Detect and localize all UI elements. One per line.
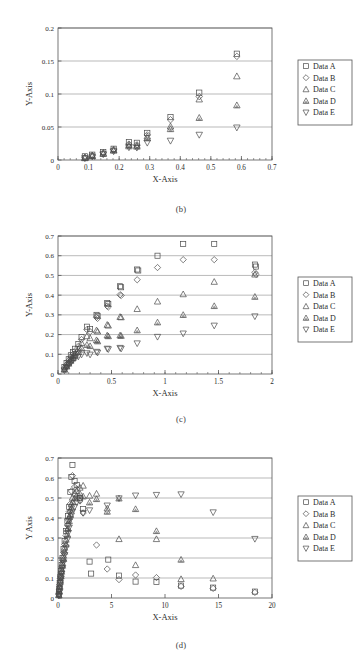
svg-text:0.5: 0.5 <box>45 272 54 280</box>
series-data-e <box>56 492 258 599</box>
svg-text:0.2: 0.2 <box>115 164 124 172</box>
x-axis-label: X-Axis <box>152 174 177 184</box>
svg-text:0.1: 0.1 <box>84 164 93 172</box>
y-axis-label: Y-Axis <box>24 293 34 317</box>
series-data-c <box>82 73 240 160</box>
svg-text:0.1: 0.1 <box>45 91 54 99</box>
svg-text:0.7: 0.7 <box>45 455 54 463</box>
svg-text:0.2: 0.2 <box>45 25 54 33</box>
plot-frame <box>58 236 272 374</box>
chart-svg-d: 00.10.20.30.40.50.60.705101520X-AxisY Ax… <box>0 434 362 656</box>
chart-svg-c: 00.10.20.30.40.50.60.700.511.52X-AxisY-A… <box>0 222 362 434</box>
svg-text:0.7: 0.7 <box>268 164 277 172</box>
svg-text:0.7: 0.7 <box>45 233 54 241</box>
gridlines <box>58 236 272 354</box>
svg-text:0.05: 0.05 <box>42 124 55 132</box>
legend-label: Data E <box>313 544 335 553</box>
svg-text:0.5: 0.5 <box>45 495 54 503</box>
svg-text:0.3: 0.3 <box>45 535 54 543</box>
svg-text:0.5: 0.5 <box>206 164 215 172</box>
x-axis-label: X-Axis <box>152 388 177 398</box>
series-data-a <box>82 51 239 159</box>
chart-panel-d: 00.10.20.30.40.50.60.705101520X-AxisY Ax… <box>0 434 362 656</box>
svg-text:0.2: 0.2 <box>45 331 54 339</box>
legend-label: Data B <box>313 74 335 83</box>
svg-text:0.3: 0.3 <box>45 311 54 319</box>
svg-text:5: 5 <box>110 602 114 610</box>
svg-text:0.5: 0.5 <box>107 378 116 386</box>
x-axis-label: X-Axis <box>152 612 177 622</box>
legend-label: Data A <box>313 279 336 288</box>
legend-label: Data D <box>313 97 336 106</box>
caption-d: (d) <box>0 640 362 650</box>
gridlines <box>58 458 272 578</box>
svg-text:0.6: 0.6 <box>45 475 54 483</box>
svg-text:0.6: 0.6 <box>45 252 54 260</box>
svg-text:0.1: 0.1 <box>45 351 54 359</box>
series-data-b <box>56 472 258 597</box>
svg-text:0.3: 0.3 <box>145 164 154 172</box>
svg-text:0.6: 0.6 <box>237 164 246 172</box>
chart-svg-b: 00.050.10.150.200.10.20.30.40.50.60.7X-A… <box>0 0 362 222</box>
x-axis: 00.511.52 <box>56 370 274 386</box>
gridlines <box>58 28 272 127</box>
svg-text:20: 20 <box>268 602 276 610</box>
caption-c: (c) <box>0 414 362 424</box>
y-axis: 00.050.10.150.2 <box>42 25 62 165</box>
svg-text:0.15: 0.15 <box>42 58 55 66</box>
svg-text:15: 15 <box>215 602 223 610</box>
series-data-b <box>82 53 240 160</box>
svg-text:0.4: 0.4 <box>176 164 185 172</box>
legend: Data AData BData CData DData E <box>298 60 352 125</box>
x-axis: 05101520 <box>56 594 276 610</box>
svg-text:0: 0 <box>51 595 55 603</box>
page-bottom-strip <box>0 660 362 668</box>
legend: Data AData BData CData DData E <box>298 277 352 342</box>
legend-label: Data A <box>313 62 336 71</box>
svg-text:0.2: 0.2 <box>45 555 54 563</box>
plot-frame <box>58 458 272 598</box>
svg-text:0: 0 <box>56 602 60 610</box>
svg-text:0: 0 <box>51 371 55 379</box>
series-data-a <box>62 241 259 369</box>
legend-label: Data B <box>313 510 335 519</box>
legend-label: Data C <box>313 302 335 311</box>
svg-text:10: 10 <box>161 602 169 610</box>
legend-label: Data E <box>313 325 335 334</box>
series-data-a <box>56 462 257 596</box>
svg-text:0.4: 0.4 <box>45 515 54 523</box>
caption-b: (b) <box>0 204 362 214</box>
legend-label: Data C <box>313 521 335 530</box>
y-axis-label: Y-Axis <box>24 82 34 106</box>
svg-text:1.5: 1.5 <box>214 378 223 386</box>
chart-panel-b: 00.050.10.150.200.10.20.30.40.50.60.7X-A… <box>0 0 362 222</box>
legend-label: Data C <box>313 85 335 94</box>
y-axis: 00.10.20.30.40.50.60.7 <box>45 233 61 379</box>
legend-label: Data B <box>313 291 335 300</box>
svg-text:0: 0 <box>56 164 60 172</box>
svg-text:2: 2 <box>270 378 274 386</box>
legend-label: Data D <box>313 533 336 542</box>
legend-label: Data D <box>313 314 336 323</box>
svg-text:0.1: 0.1 <box>45 575 54 583</box>
svg-text:0.4: 0.4 <box>45 292 54 300</box>
chart-panel-c: 00.10.20.30.40.50.60.700.511.52X-AxisY-A… <box>0 222 362 434</box>
legend-label: Data E <box>313 108 335 117</box>
svg-text:1: 1 <box>163 378 167 386</box>
svg-text:0: 0 <box>56 378 60 386</box>
figure-root: 00.050.10.150.200.10.20.30.40.50.60.7X-A… <box>0 0 362 668</box>
series-data-d <box>61 294 258 373</box>
legend-label: Data A <box>313 498 336 507</box>
y-axis-label: Y Axis <box>24 516 34 540</box>
svg-text:0: 0 <box>51 157 55 165</box>
legend: Data AData BData CData DData E <box>298 496 352 561</box>
